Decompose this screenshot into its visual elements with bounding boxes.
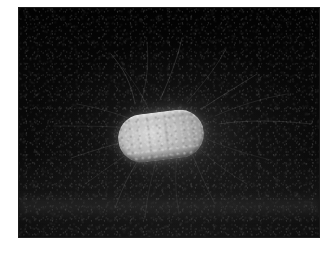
flagellum (193, 156, 215, 204)
flagellum (215, 94, 287, 116)
micrograph-figure (0, 0, 336, 255)
flagellum (141, 42, 148, 102)
micrograph-image-field (19, 8, 319, 237)
bacterial-cell (115, 107, 206, 165)
flagellum (209, 140, 271, 160)
flagellum (187, 49, 226, 102)
flagellum (201, 150, 247, 184)
flagellum (219, 121, 311, 124)
flagellum (160, 38, 182, 100)
